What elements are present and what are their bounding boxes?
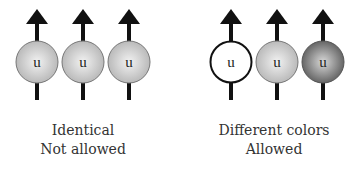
spin-up-arrow-icon — [118, 9, 140, 24]
identical-caption: Identical Not allowed — [3, 121, 163, 159]
quark-letter: u — [33, 54, 41, 70]
identical-group: u u u — [16, 9, 150, 100]
particle-1: u — [16, 9, 58, 100]
caption-line-1: Identical — [3, 121, 163, 140]
spin-up-arrow-icon — [220, 9, 242, 24]
caption-line-2: Allowed — [194, 140, 354, 159]
particle-3: u — [108, 9, 150, 100]
caption-line-2: Not allowed — [3, 140, 163, 159]
particle-2: u — [62, 9, 104, 100]
spin-up-arrow-icon — [266, 9, 288, 24]
quark-letter: u — [79, 54, 87, 70]
particle-5: u — [256, 9, 298, 100]
quark-letter: u — [227, 54, 235, 70]
spin-up-arrow-icon — [26, 9, 48, 24]
particle-4: u — [211, 9, 252, 100]
particle-6: u — [302, 9, 344, 100]
quark-letter: u — [273, 54, 281, 70]
caption-line-1: Different colors — [194, 121, 354, 140]
different-colors-group: u u u — [211, 9, 345, 100]
spin-up-arrow-icon — [72, 9, 94, 24]
quark-letter: u — [319, 54, 327, 70]
spin-up-arrow-icon — [312, 9, 334, 24]
different-colors-caption: Different colors Allowed — [194, 121, 354, 159]
quark-letter: u — [125, 54, 133, 70]
